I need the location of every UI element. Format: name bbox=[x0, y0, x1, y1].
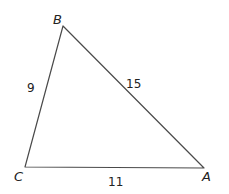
side-label-ba: 15 bbox=[126, 77, 141, 91]
vertex-label-a: A bbox=[201, 169, 211, 184]
vertex-label-b: B bbox=[53, 12, 62, 27]
side-label-bc: 9 bbox=[27, 81, 35, 95]
side-label-ca: 11 bbox=[108, 175, 123, 189]
vertex-label-c: C bbox=[14, 169, 24, 184]
triangle-outline bbox=[25, 26, 204, 168]
triangle-diagram: B C A 9 15 11 bbox=[0, 0, 229, 194]
